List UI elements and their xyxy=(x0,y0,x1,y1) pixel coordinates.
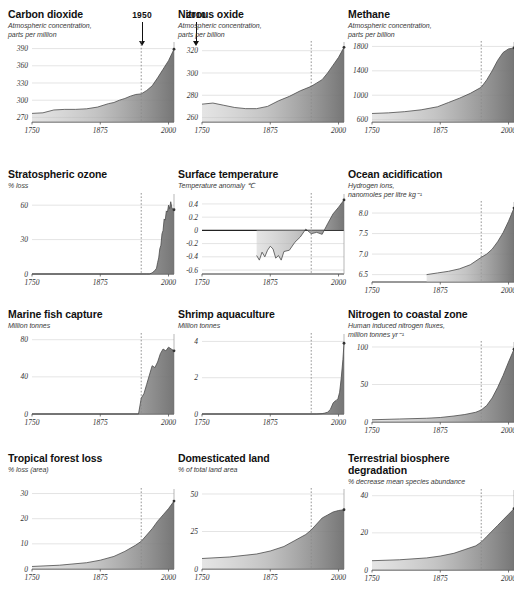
chart-title: Tropical forest loss xyxy=(8,452,176,464)
chart-title: Shrimp aquaculture xyxy=(178,308,346,320)
series-line xyxy=(32,201,174,273)
chart-title: Stratospheric ozone xyxy=(8,168,176,180)
chart-subtitle: % decrease mean species abundance xyxy=(348,478,514,487)
chart-subtitle: Atmospheric concentration,parts per mill… xyxy=(8,22,176,39)
x-axis-tick: 1875 xyxy=(433,126,448,135)
chart-panel-nitrogen-to-coastal-zone: Nitrogen to coastal zoneHuman induced ni… xyxy=(348,308,514,434)
y-axis-tick: 0.2 xyxy=(189,212,199,221)
x-axis-tick: 2000 xyxy=(161,126,176,135)
chart-title: Surface temperature xyxy=(178,168,346,180)
chart-subtitle: % loss xyxy=(8,182,176,191)
x-axis-tick: 1750 xyxy=(365,574,380,583)
series-endpoint xyxy=(343,198,346,201)
y-axis-tick: 20 xyxy=(361,528,369,537)
x-axis-tick: 1875 xyxy=(93,278,108,287)
x-axis-tick: 1875 xyxy=(263,126,278,135)
y-axis-tick: -0.6 xyxy=(186,265,198,274)
y-axis-tick: 1000 xyxy=(353,91,368,100)
plot-area: 024175018752000 xyxy=(178,332,346,426)
chart-subtitle: % of total land area xyxy=(178,466,346,475)
y-axis-tick: 40 xyxy=(21,372,29,381)
x-axis-tick: 1875 xyxy=(93,573,108,582)
chart-title: Nitrous oxide xyxy=(178,8,346,20)
plot-area: 600100014001800175018752000 xyxy=(348,40,514,134)
y-axis-tick: 60 xyxy=(21,200,29,209)
plot-area: 02040175018752000 xyxy=(348,488,514,582)
chart-svg: 04080175018752000 xyxy=(8,332,178,426)
chart-svg: 270300330360390175018752000 xyxy=(8,40,178,134)
chart-panel-terrestrial-biosphere-degradation: Terrestrial biospheredegradation% decrea… xyxy=(348,452,514,582)
series-endpoint xyxy=(343,508,346,511)
chart-svg: 024175018752000 xyxy=(178,332,348,426)
chart-svg: -0.6-0.4-0.200.20.4175018752000 xyxy=(178,192,348,286)
area-fill xyxy=(32,347,174,414)
y-axis-tick: 8.0 xyxy=(359,209,369,218)
plot-area: 04080175018752000 xyxy=(8,332,176,426)
chart-title: Terrestrial biospheredegradation xyxy=(348,452,514,476)
y-axis-tick: 50 xyxy=(191,489,199,498)
chart-panel-marine-fish-capture: Marine fish captureMillion tonnes0408017… xyxy=(8,308,176,426)
area-fill xyxy=(372,48,514,122)
plot-area: 0102030175018752000 xyxy=(8,487,176,581)
y-axis-tick: 270 xyxy=(17,113,29,122)
x-axis-tick: 2000 xyxy=(501,126,514,135)
y-axis-tick: 4 xyxy=(194,337,198,346)
y-axis-tick: 25 xyxy=(191,527,199,536)
chart-svg: 02550175018752000 xyxy=(178,487,348,581)
x-axis-tick: 2000 xyxy=(331,278,346,287)
x-axis-tick: 1875 xyxy=(433,286,448,295)
series-endpoint xyxy=(173,48,176,51)
chart-panel-domesticated-land: Domesticated land% of total land area025… xyxy=(178,452,346,581)
chart-panel-nitrous-oxide: Nitrous oxideAtmospheric concentration,p… xyxy=(178,8,346,134)
x-axis-tick: 1875 xyxy=(263,418,278,427)
y-axis-tick: -0.2 xyxy=(186,239,198,248)
x-axis-tick: 2000 xyxy=(501,574,514,583)
y-axis-tick: 390 xyxy=(16,44,29,53)
chart-svg: 050100175018752000 xyxy=(348,340,514,434)
x-axis-tick: 2000 xyxy=(331,418,346,427)
x-axis-tick: 1750 xyxy=(195,126,210,135)
chart-panel-tropical-forest-loss: Tropical forest loss% loss (area)0102030… xyxy=(8,452,176,581)
plot-area: 03060175018752000 xyxy=(8,192,176,286)
chart-panel-methane: MethaneAtmospheric concentration,parts p… xyxy=(348,8,514,134)
chart-subtitle: Atmospheric concentration,parts per bill… xyxy=(178,22,346,39)
chart-subtitle: Temperature anomaly ℃ xyxy=(178,182,346,191)
y-axis-tick: 20 xyxy=(21,514,29,523)
y-axis-tick: 100 xyxy=(357,343,369,352)
chart-svg: 03060175018752000 xyxy=(8,192,178,286)
y-axis-tick: 0.4 xyxy=(189,199,199,208)
x-axis-tick: 1750 xyxy=(195,573,210,582)
chart-subtitle: Atmospheric concentration,parts per bill… xyxy=(348,22,514,39)
chart-panel-surface-temperature: Surface temperatureTemperature anomaly ℃… xyxy=(178,168,346,286)
chart-panel-carbon-dioxide: Carbon dioxideAtmospheric concentration,… xyxy=(8,8,176,134)
y-axis-tick: 6.5 xyxy=(359,270,369,279)
chart-svg: 600100014001800175018752000 xyxy=(348,40,514,134)
area-fill xyxy=(32,201,174,273)
chart-title: Marine fish capture xyxy=(8,308,176,320)
series-endpoint xyxy=(173,208,176,211)
area-fill xyxy=(202,343,344,414)
y-axis-tick: 1800 xyxy=(353,42,368,51)
chart-title: Methane xyxy=(348,8,514,20)
x-axis-tick: 1750 xyxy=(365,126,380,135)
chart-subtitle: Hydrogen ions,nanomoles per litre kg⁻¹ xyxy=(348,182,514,199)
x-axis-tick: 2000 xyxy=(501,426,514,435)
great-acceleration-figure: 19502010 Carbon dioxideAtmospheric conce… xyxy=(0,0,514,590)
y-axis-tick: 2 xyxy=(194,373,198,382)
y-axis-tick: 320 xyxy=(186,46,199,55)
y-axis-tick: 7.0 xyxy=(359,250,369,259)
area-fill xyxy=(372,508,514,569)
chart-subtitle: % loss (area) xyxy=(8,466,176,475)
chart-svg: 6.57.07.58.0175018752000 xyxy=(348,200,514,294)
x-axis-tick: 2000 xyxy=(161,418,176,427)
area-fill xyxy=(32,501,174,569)
plot-area: 260280300320175018752000 xyxy=(178,40,346,134)
x-axis-tick: 1750 xyxy=(25,418,40,427)
chart-svg: 0102030175018752000 xyxy=(8,487,178,581)
y-axis-tick: 1400 xyxy=(353,66,368,75)
y-axis-tick: 280 xyxy=(187,91,199,100)
chart-panel-stratospheric-ozone: Stratospheric ozone% loss030601750187520… xyxy=(8,168,176,286)
chart-svg: 02040175018752000 xyxy=(348,488,514,582)
y-axis-tick: 50 xyxy=(361,380,369,389)
chart-panel-ocean-acidification: Ocean acidificationHydrogen ions,nanomol… xyxy=(348,168,514,294)
